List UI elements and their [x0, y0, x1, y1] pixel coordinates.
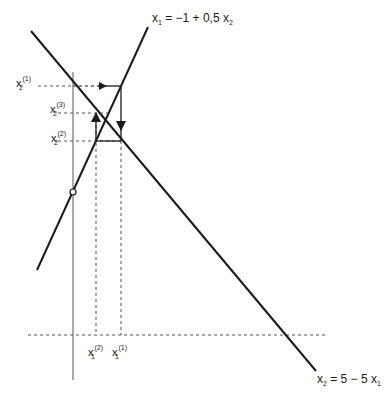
label-x1-iter2: x(2)1	[88, 347, 95, 358]
label-x1-iter1: x(1)1	[112, 347, 119, 358]
rising-line	[37, 27, 148, 270]
falling-line	[31, 31, 316, 371]
label-x2-iter3: x(3)2	[50, 104, 57, 115]
intercept-point	[70, 189, 76, 195]
label-x2-iter1: x(1)2	[16, 78, 23, 89]
rising-line-equation: x1 = −1 + 0,5 x2	[152, 12, 233, 24]
falling-line-equation: x2 = 5 − 5 x1	[317, 373, 381, 385]
iteration-diagram	[0, 0, 390, 411]
label-x2-iter2: x(2)2	[51, 133, 58, 144]
